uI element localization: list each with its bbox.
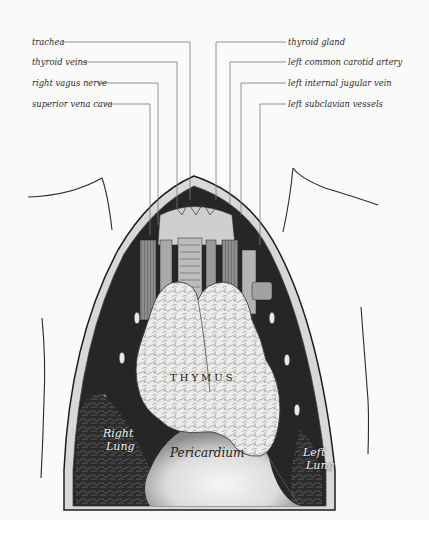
bottom-margin [0, 520, 429, 550]
label-right-lung-line2: Lung [106, 441, 135, 453]
label-left-lung-line2: Lung [306, 460, 335, 472]
label-left-internal-jugular-vein: left internal jugular vein [288, 78, 392, 88]
label-thyroid-veins: thyroid veins [32, 57, 87, 67]
label-left-common-carotid-artery: left common carotid artery [288, 57, 402, 67]
label-thyroid-gland: thyroid gland [288, 37, 345, 47]
leader-line-superior-vena-cava [105, 104, 150, 235]
label-superior-vena-cava: superior vena cava [32, 99, 113, 109]
label-right-lung-line1: Right [103, 428, 133, 440]
thymus-anatomy-figure: trachea thyroid veins right vagus nerve … [0, 0, 429, 550]
label-right-vagus-nerve: right vagus nerve [32, 78, 107, 88]
leader-line-left-internal-jugular-vein [241, 83, 286, 215]
label-thymus: THYMUS [170, 372, 236, 383]
label-trachea: trachea [32, 37, 64, 47]
leader-line-thyroid-gland [216, 42, 286, 200]
label-left-subclavian-vessels: left subclavian vessels [288, 99, 383, 109]
label-left-lung-line1: Left [303, 447, 325, 459]
leader-line-left-common-carotid-artery [230, 62, 286, 205]
label-pericardium: Pericardium [170, 446, 244, 460]
leader-line-left-subclavian-vessels [260, 104, 286, 245]
